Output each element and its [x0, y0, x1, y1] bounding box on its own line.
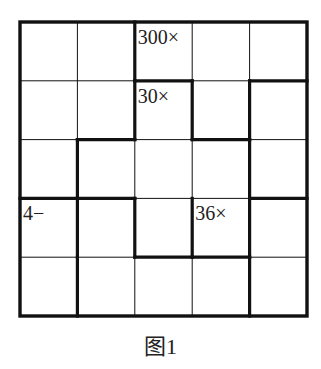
grid-cell[interactable] [135, 140, 192, 199]
cage-clue: 4− [23, 202, 44, 224]
grid-cell[interactable] [77, 140, 134, 199]
figure-caption: 图1 [0, 328, 321, 360]
grid-cell[interactable] [20, 22, 77, 81]
cage-clue: 300× [138, 26, 179, 48]
grid-cell[interactable] [192, 257, 249, 316]
grid-cell[interactable] [192, 140, 249, 199]
grid-cell[interactable] [250, 22, 307, 81]
grid-cell[interactable] [77, 198, 134, 257]
kenken-grid: 300×30×4−36× [0, 0, 321, 330]
grid-cell[interactable] [250, 140, 307, 199]
cage-clue: 30× [138, 85, 169, 107]
grid-cell[interactable] [250, 257, 307, 316]
cage-clue: 36× [195, 202, 226, 224]
grid-cell[interactable] [77, 257, 134, 316]
grid-cell[interactable] [250, 81, 307, 140]
grid-cell[interactable] [20, 81, 77, 140]
grid-cell[interactable] [20, 140, 77, 199]
grid-cell[interactable] [135, 198, 192, 257]
grid-cell[interactable] [77, 22, 134, 81]
grid-cell[interactable] [20, 257, 77, 316]
grid-cell[interactable] [250, 198, 307, 257]
grid-cell[interactable] [77, 81, 134, 140]
grid-cell[interactable] [192, 81, 249, 140]
grid-cell[interactable] [192, 22, 249, 81]
grid-cell[interactable] [135, 257, 192, 316]
